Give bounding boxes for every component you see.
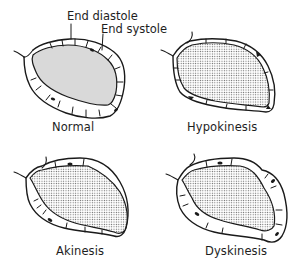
vessel-line-icon bbox=[14, 172, 26, 178]
caption-normal: Normal bbox=[52, 120, 94, 134]
caption-akinesis: Akinesis bbox=[56, 244, 104, 258]
end-diastole-callout: End diastole bbox=[67, 9, 138, 23]
vessel-line-icon bbox=[166, 174, 178, 180]
end-systole-callout: End systole bbox=[101, 22, 167, 36]
end-systole-cavity bbox=[32, 45, 117, 105]
vessel-line-icon bbox=[14, 51, 24, 57]
panel-akinesis bbox=[14, 157, 128, 237]
vessel-line-icon bbox=[24, 50, 33, 57]
end-systole-cavity bbox=[30, 166, 127, 234]
caption-dyskinesis: Dyskinesis bbox=[205, 244, 267, 258]
caption-hypokinesis: Hypokinesis bbox=[187, 120, 257, 134]
vessel-line-icon bbox=[161, 50, 173, 56]
panel-normal bbox=[14, 24, 125, 118]
lv-wall-motion-diagram: End diastole End systole Normal Hypokine… bbox=[0, 0, 302, 264]
panel-hypokinesis bbox=[161, 32, 275, 112]
end-systole-cavity bbox=[182, 166, 275, 231]
end-systole-leader bbox=[102, 34, 103, 50]
vessel-line-icon bbox=[190, 154, 195, 165]
panel-dyskinesis bbox=[166, 154, 287, 242]
